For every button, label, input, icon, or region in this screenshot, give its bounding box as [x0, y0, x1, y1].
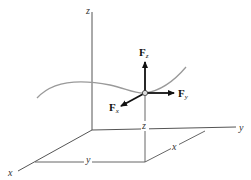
force-z-label: Fz: [139, 46, 149, 60]
x-axis-label: x: [7, 167, 13, 178]
force-y-label: Fy: [178, 87, 189, 101]
z-axis-label: z: [85, 5, 90, 16]
y-axis-label: y: [238, 122, 244, 133]
application-point: [142, 90, 147, 95]
force-components-diagram: z y x z x y Fz Fy Fx: [0, 0, 251, 180]
x-axis: [18, 130, 92, 171]
x-coordinate-label: x: [171, 141, 177, 152]
z-coordinate-label: z: [141, 120, 146, 131]
force-x-label: Fx: [109, 101, 120, 115]
y-coordinate-label: y: [85, 154, 91, 165]
force-x-arrow: [121, 93, 145, 106]
y-axis: [92, 127, 236, 130]
